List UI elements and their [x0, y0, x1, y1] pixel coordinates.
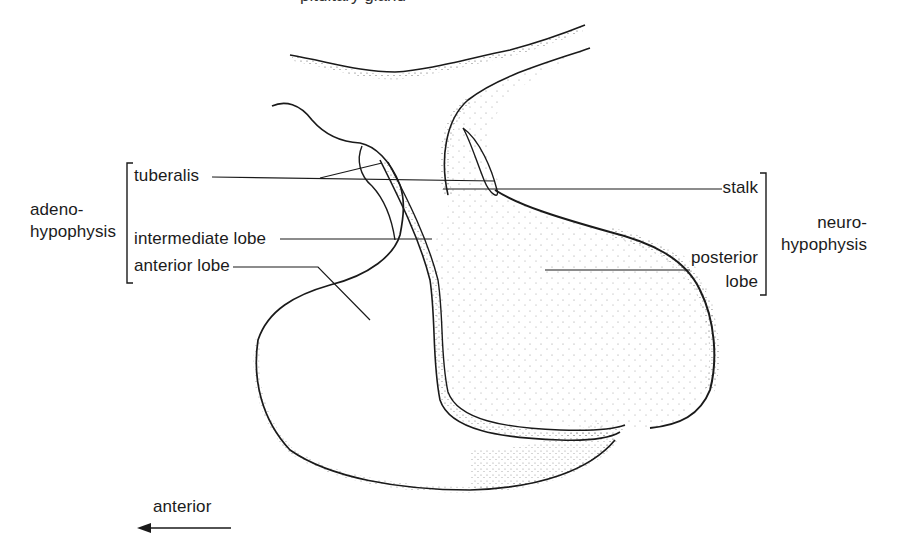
- leader-tuberalis-branch: [320, 163, 382, 178]
- pituitary-diagram: pituitary gland: [0, 0, 901, 559]
- neurohypophysis-title-line1: neuro-: [817, 213, 867, 233]
- adenohypophysis-bracket: [127, 163, 133, 283]
- neurohypophysis-title-line2: hypophysis: [781, 235, 867, 255]
- left-arrow-icon: [137, 523, 231, 533]
- label-anterior-lobe: anterior lobe: [134, 256, 230, 276]
- label-intermediate-lobe: intermediate lobe: [134, 229, 266, 249]
- neurohypophysis-bracket: [760, 173, 766, 295]
- label-tuberalis: tuberalis: [134, 166, 199, 186]
- posterior-lobe-shape: [432, 48, 716, 428]
- adenohypophysis-title-line2: hypophysis: [30, 222, 116, 242]
- adenohypophysis-title-line1: adeno-: [30, 200, 84, 220]
- gland-illustration: [0, 0, 901, 559]
- orientation-label: anterior: [153, 497, 211, 517]
- label-posterior: posterior: [691, 248, 758, 268]
- label-stalk: stalk: [723, 178, 758, 198]
- label-lobe: lobe: [725, 272, 758, 292]
- leader-anterior: [233, 267, 370, 320]
